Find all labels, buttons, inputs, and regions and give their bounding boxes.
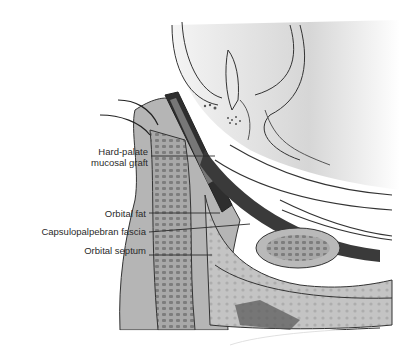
label-line: Orbital septum xyxy=(84,245,146,256)
label-orbital-fat: Orbital fat xyxy=(105,208,146,219)
label-hard-palate-mucosal-graft: Hard-palate mucosal graft xyxy=(91,146,148,168)
anatomical-illustration xyxy=(0,0,410,359)
label-orbital-septum: Orbital septum xyxy=(84,245,146,256)
label-line: Capsulopalpebran fascia xyxy=(41,226,146,237)
label-capsulopalpebral-fascia: Capsulopalpebran fascia xyxy=(41,226,146,237)
label-line: mucosal graft xyxy=(91,157,148,168)
label-line: Orbital fat xyxy=(105,208,146,219)
label-line: Hard-palate xyxy=(91,146,148,157)
